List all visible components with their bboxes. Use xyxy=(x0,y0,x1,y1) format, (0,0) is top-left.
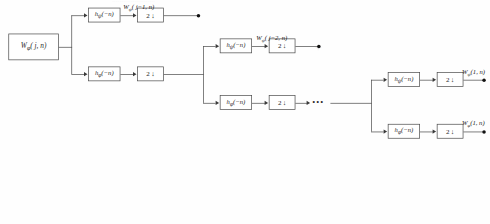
arrow-stage1-lp-in xyxy=(84,72,88,76)
wire-stage3-hp-out xyxy=(463,80,484,81)
wire-split-bus-stage2 xyxy=(203,46,204,103)
stage2-highpass-output-label: Wψ( j−2, n) xyxy=(256,34,287,43)
arrow-stage2-hp-in xyxy=(216,44,220,48)
stage2-highpass-output-dot xyxy=(317,44,321,48)
wire-split-bus-stage1 xyxy=(71,15,72,74)
arrow-stage3-hp-down xyxy=(433,78,437,82)
stage2-highpass-filter-label: hψ(−n) xyxy=(226,42,245,50)
stage3-highpass-filter-block: hψ(−n) xyxy=(388,72,420,87)
wire-stage1-lp-in xyxy=(71,74,84,75)
stage2-highpass-filter-block: hψ(−n) xyxy=(220,39,252,54)
arrow-stage2-lp-down xyxy=(265,101,269,105)
stage3-highpass-downsampler: 2↓ xyxy=(437,72,464,87)
down-arrow-icon: ↓ xyxy=(451,128,455,135)
stage3-lowpass-output-label: Wφ(1, n) xyxy=(462,120,485,129)
continuation-ellipsis: ••• xyxy=(312,97,324,108)
stage3-lowpass-downsample-label: 2↓ xyxy=(446,128,454,135)
stage3-highpass-output-dot xyxy=(482,78,486,82)
down-arrow-icon: ↓ xyxy=(283,99,287,106)
down-arrow-icon: ↓ xyxy=(283,42,287,49)
wire-stage2-hp-in xyxy=(203,46,216,47)
wire-stage3-hp-in xyxy=(371,80,384,81)
source-node: Wφ( j, n) xyxy=(8,34,58,61)
stage1-highpass-filter-block: hψ(−n) xyxy=(88,8,120,23)
stage1-lowpass-downsample-label: 2↓ xyxy=(146,70,154,77)
stage2-lowpass-downsample-label: 2↓ xyxy=(278,99,286,106)
arrow-stage1-hp-down xyxy=(133,13,137,17)
wire-continuation-out xyxy=(330,103,371,104)
stage3-highpass-output-label: Wψ(1, n) xyxy=(462,68,485,77)
arrow-stage3-lp-in xyxy=(384,130,388,134)
arrow-stage1-lp-down xyxy=(133,72,137,76)
stage1-highpass-output-dot xyxy=(197,14,201,18)
stage3-lowpass-output-dot xyxy=(482,130,486,134)
wire-source-out xyxy=(59,47,72,48)
stage2-highpass-downsample-label: 2↓ xyxy=(278,42,286,49)
wire-stage1-hp-out xyxy=(164,15,199,16)
wire-split-bus-stage3 xyxy=(371,80,372,132)
stage2-lowpass-downsampler: 2↓ xyxy=(269,95,296,110)
wire-stage2-lp-in xyxy=(203,103,216,104)
down-arrow-icon: ↓ xyxy=(451,76,455,83)
wire-stage2-hp-out xyxy=(295,46,319,47)
arrow-stage2-lp-in xyxy=(216,101,220,105)
figure-viewport: ······················· ✦ Wφ( j, n) hψ(−… xyxy=(0,0,490,224)
arrow-stage3-hp-in xyxy=(384,78,388,82)
stage1-lowpass-filter-block: hφ(−n) xyxy=(88,67,120,82)
stage2-lowpass-filter-block: hφ(−n) xyxy=(220,95,252,110)
wavelet-filter-bank-figure: ······················· ✦ Wφ( j, n) hψ(−… xyxy=(0,0,490,224)
source-label: Wφ( j, n) xyxy=(21,42,47,51)
stage1-highpass-filter-label: hψ(−n) xyxy=(95,11,114,19)
arrow-stage2-continuation xyxy=(307,101,311,105)
arrow-stage1-hp-in xyxy=(84,13,88,17)
stage3-lowpass-downsampler: 2↓ xyxy=(437,124,464,139)
stage3-lowpass-filter-block: hφ(−n) xyxy=(388,124,420,139)
stage3-highpass-downsample-label: 2↓ xyxy=(446,76,454,83)
arrow-stage2-hp-down xyxy=(265,44,269,48)
wire-stage3-lp-in xyxy=(371,132,384,133)
stage3-lowpass-filter-label: hφ(−n) xyxy=(395,127,414,135)
arrow-stage3-lp-down xyxy=(433,130,437,134)
down-arrow-icon: ↓ xyxy=(151,12,155,19)
wire-stage3-lp-out xyxy=(463,132,484,133)
wire-stage1-hp-in xyxy=(71,15,84,16)
down-arrow-icon: ↓ xyxy=(151,70,155,77)
stage1-lowpass-downsampler: 2↓ xyxy=(137,67,164,82)
stage2-lowpass-filter-label: hφ(−n) xyxy=(227,98,246,106)
stage1-highpass-downsample-label: 2↓ xyxy=(146,12,154,19)
wire-stage1-lp-out xyxy=(164,74,204,75)
stage3-highpass-filter-label: hψ(−n) xyxy=(394,75,413,83)
stage1-highpass-output-label: Wψ( j−1, n) xyxy=(123,4,154,13)
stage1-lowpass-filter-label: hφ(−n) xyxy=(95,70,114,78)
